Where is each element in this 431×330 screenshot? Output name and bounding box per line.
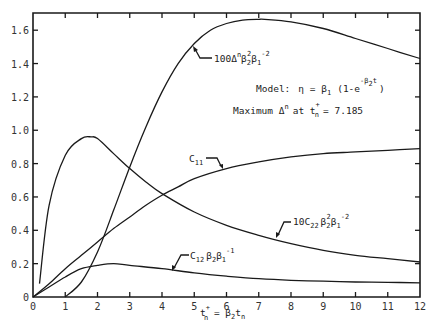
svg-text:C11: C11 — [189, 153, 203, 167]
y-tick-label: 1.0 — [11, 125, 29, 136]
x-tick-label: 1 — [62, 301, 68, 312]
curve-c12 — [33, 264, 420, 297]
y-tick-label: 1.2 — [11, 92, 29, 103]
svg-text:100Δnβ22β1-2: 100Δnβ22β1-2 — [214, 50, 270, 67]
x-tick-label: 9 — [320, 301, 326, 312]
x-tick-label: 7 — [256, 301, 262, 312]
chart: 0123456789101112 00.20.40.60.81.01.21.41… — [0, 0, 431, 330]
arrow-c22 — [278, 222, 291, 235]
y-tick-label: 0.2 — [11, 259, 29, 270]
y-tick-label: 0.4 — [11, 225, 29, 236]
x-tick-label: 12 — [414, 301, 426, 312]
x-tick-label: 8 — [288, 301, 294, 312]
arrowhead-delta — [193, 46, 198, 52]
maximum-annotation: Maximum Δnat t+n= 7.185 — [233, 101, 363, 119]
y-tick-label: 0.8 — [11, 159, 29, 170]
svg-text:C12β2β1-1: C12β2β1-1 — [190, 247, 235, 264]
y-tick-label: 0.6 — [11, 192, 29, 203]
x-tick-label: 0 — [30, 301, 36, 312]
arrow-c12 — [174, 255, 189, 268]
y-tick-label: 0 — [23, 292, 29, 303]
curve-c22 — [40, 137, 421, 284]
model-annotation: Model:η = β1(1-e-β2t) — [256, 77, 385, 97]
svg-text:10C22β22β1-2: 10C22β22β1-2 — [293, 213, 349, 230]
x-tick-label: 5 — [191, 301, 197, 312]
x-tick-label: 2 — [94, 301, 100, 312]
arrow-c11 — [206, 158, 221, 166]
label-delta: 100Δnβ22β1-2 — [193, 46, 270, 67]
arrowhead-c11 — [219, 164, 223, 169]
label-c12: C12β2β1-1 — [172, 247, 235, 271]
x-axis-label: t+n = β2tn — [200, 304, 245, 322]
arrow-delta — [195, 49, 212, 58]
curve-c11 — [33, 149, 420, 297]
y-tick-label: 1.4 — [11, 59, 29, 70]
label-c11: C11 — [189, 153, 223, 169]
y-tick-label: 1.6 — [11, 25, 29, 36]
x-tick-label: 3 — [127, 301, 133, 312]
label-c22: 10C22β22β1-2 — [276, 213, 349, 238]
x-tick-label: 10 — [349, 301, 361, 312]
x-tick-label: 11 — [382, 301, 394, 312]
x-tick-label: 4 — [159, 301, 165, 312]
